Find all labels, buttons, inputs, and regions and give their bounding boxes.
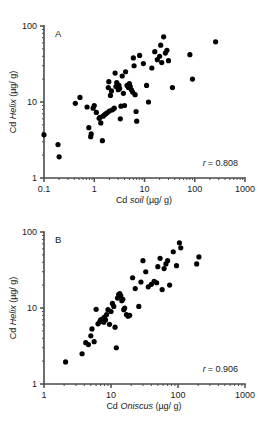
data-point xyxy=(171,249,176,254)
data-point xyxy=(104,312,109,317)
data-point xyxy=(121,91,126,96)
y-tick-label: 1 xyxy=(32,379,37,389)
panel-a-x-ticks: 0.11101001000 xyxy=(38,178,255,194)
data-point xyxy=(133,92,138,97)
figure-scatter-panels: 0.11101001000 110100 A r= 0.808 Cd soil … xyxy=(0,0,269,424)
data-point xyxy=(118,116,123,121)
panel-a-plot: 0.11101001000 110100 A r= 0.808 Cd soil … xyxy=(0,0,269,212)
data-point xyxy=(190,77,195,82)
panel-b-plot: 1101001000 110100 B r= 0.906 Cd Oniscus … xyxy=(0,212,269,424)
x-tick-label: 100 xyxy=(187,184,202,194)
panel-b: 1101001000 110100 B r= 0.906 Cd Oniscus … xyxy=(0,212,269,424)
x-tick-label: 1 xyxy=(92,184,97,194)
data-point xyxy=(170,85,175,90)
y-tick-label: 10 xyxy=(27,303,37,313)
data-point xyxy=(160,287,165,292)
data-point xyxy=(177,240,182,245)
data-point xyxy=(111,304,116,309)
panel-a: 0.11101001000 110100 A r= 0.808 Cd soil … xyxy=(0,0,269,212)
data-point xyxy=(98,120,103,125)
x-tick-label: 1 xyxy=(41,390,46,400)
data-point xyxy=(94,110,99,115)
y-tick-label: 10 xyxy=(27,97,37,107)
data-point xyxy=(79,351,84,356)
x-tick-label: 10 xyxy=(106,390,116,400)
panel-a-y-axis-title: Cd Helix (µg/ g) xyxy=(8,71,18,134)
data-point xyxy=(112,106,117,111)
data-point xyxy=(157,256,162,261)
data-point xyxy=(154,280,159,285)
data-point xyxy=(88,333,93,338)
data-point xyxy=(174,263,179,268)
data-point xyxy=(86,342,91,347)
data-point xyxy=(158,43,163,48)
data-point xyxy=(55,142,60,147)
data-point xyxy=(146,99,151,104)
data-point xyxy=(41,132,46,137)
data-point xyxy=(136,304,141,309)
data-point xyxy=(92,339,97,344)
x-tick-label: 10 xyxy=(139,184,149,194)
data-point xyxy=(103,317,108,322)
data-point xyxy=(161,34,166,39)
panel-b-axes xyxy=(44,232,245,384)
data-point xyxy=(166,58,171,63)
data-point xyxy=(140,258,145,263)
panel-a-correlation-label: r= 0.808 xyxy=(203,158,238,168)
data-point xyxy=(194,261,199,266)
x-tick-label: 0.1 xyxy=(38,184,51,194)
data-point xyxy=(134,119,139,124)
data-point xyxy=(94,307,99,312)
panel-a-letter: A xyxy=(55,28,62,39)
data-point xyxy=(107,322,112,327)
data-point xyxy=(149,65,154,70)
data-point xyxy=(122,103,127,108)
panel-a-x-axis-title: Cd soil (µg/ g) xyxy=(116,195,172,205)
data-point xyxy=(138,279,143,284)
data-point xyxy=(130,275,135,280)
data-point xyxy=(86,125,91,130)
data-point xyxy=(122,305,127,310)
panel-b-y-axis-title: Cd Helix (µg/ g) xyxy=(8,277,18,340)
data-point xyxy=(63,359,68,364)
data-point xyxy=(92,103,97,108)
data-point xyxy=(137,53,142,58)
data-point xyxy=(178,245,183,250)
data-point xyxy=(89,131,94,136)
data-point xyxy=(114,345,119,350)
data-point xyxy=(113,71,118,76)
data-point xyxy=(120,73,125,78)
x-tick-label: 1000 xyxy=(235,390,255,400)
data-point xyxy=(117,86,122,91)
y-tick-label: 100 xyxy=(22,227,37,237)
data-point xyxy=(120,297,125,302)
data-point xyxy=(106,79,111,84)
panel-a-y-ticks: 110100 xyxy=(22,21,44,183)
y-tick-label: 1 xyxy=(32,173,37,183)
data-point xyxy=(133,109,138,114)
panel-b-axis-lines xyxy=(44,232,245,384)
data-point xyxy=(187,52,192,57)
data-point xyxy=(213,39,218,44)
panel-b-x-axis-title: Cd Oniscus (µg/ g) xyxy=(106,401,181,411)
data-point xyxy=(84,104,89,109)
data-point xyxy=(57,154,62,159)
data-point xyxy=(141,61,146,66)
panel-b-letter: B xyxy=(55,234,61,245)
data-point xyxy=(108,309,113,314)
data-point xyxy=(164,48,169,53)
panel-b-y-ticks: 110100 xyxy=(22,227,44,389)
data-point xyxy=(133,286,138,291)
data-point xyxy=(109,88,114,93)
data-point xyxy=(196,254,201,259)
data-point xyxy=(144,83,149,88)
panel-a-data-points xyxy=(41,34,218,159)
data-point xyxy=(131,55,136,60)
data-point xyxy=(167,283,172,288)
data-point xyxy=(165,258,170,263)
data-point xyxy=(157,54,162,59)
data-point xyxy=(73,101,78,106)
data-point xyxy=(77,95,82,100)
panel-b-correlation-label: r= 0.906 xyxy=(203,364,238,374)
data-point xyxy=(159,60,164,65)
